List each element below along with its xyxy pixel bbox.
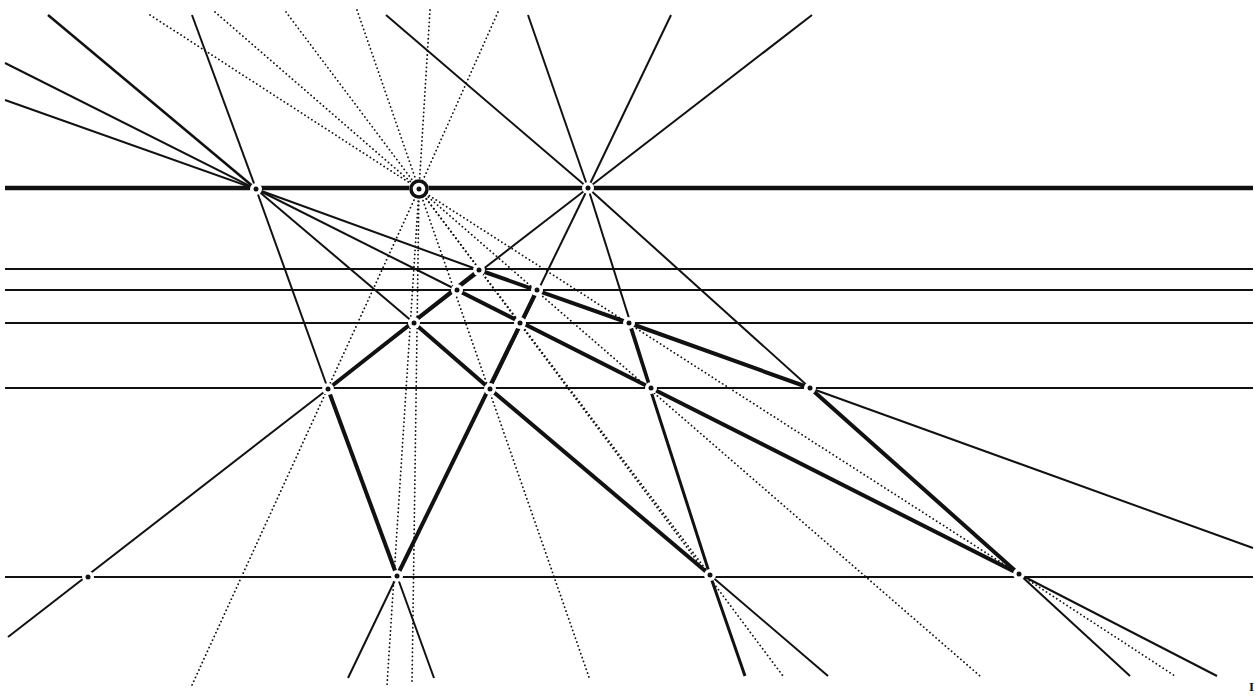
- p1-point: [477, 268, 482, 273]
- p3-point: [455, 288, 460, 293]
- p2-point: [535, 288, 540, 293]
- solid-ray: [651, 388, 1019, 574]
- p4-point: [412, 321, 417, 326]
- p10-point: [808, 386, 813, 391]
- p9-point: [649, 386, 654, 391]
- vp-left-point: [254, 187, 259, 192]
- solid-ray: [629, 323, 710, 575]
- solid-ray: [397, 290, 537, 576]
- solid-ray: [5, 63, 256, 189]
- intersection-points: [82, 179, 1025, 583]
- solid-ray: [1019, 574, 1217, 676]
- solid-ray: [397, 576, 434, 678]
- solid-ray: [1019, 574, 1130, 676]
- dotted-ray: [419, 189, 783, 676]
- solid-ray: [256, 189, 479, 270]
- b1-point: [86, 575, 91, 580]
- p7-point: [326, 387, 331, 392]
- dotted-ray: [286, 12, 419, 189]
- dotted-ray: [192, 189, 419, 685]
- p5-point: [518, 321, 523, 326]
- dotted-ray: [419, 189, 710, 575]
- solid-ray: [588, 15, 812, 188]
- solid-ray: [810, 388, 1253, 548]
- corner-mark: I: [1249, 679, 1254, 695]
- vp-center-point: [417, 187, 422, 192]
- dotted-ray: [419, 189, 590, 680]
- dotted-ray: [412, 189, 419, 685]
- dotted-ray: [419, 189, 980, 676]
- dotted-ray: [419, 189, 1019, 574]
- solid-ray: [588, 15, 671, 188]
- solid-ray: [5, 100, 256, 189]
- b2-point: [395, 574, 400, 579]
- solid-ray: [490, 389, 710, 575]
- solid-ray: [328, 389, 397, 576]
- p6-point: [627, 321, 632, 326]
- solid-rays: [5, 15, 1253, 678]
- p8-point: [488, 387, 493, 392]
- solid-ray: [810, 388, 1019, 574]
- dotted-ray: [1019, 574, 1175, 676]
- solid-ray: [348, 576, 397, 678]
- projective-diagram: [0, 0, 1258, 697]
- solid-ray: [414, 323, 490, 389]
- dotted-rays: [150, 10, 1175, 685]
- dotted-ray: [150, 15, 419, 189]
- solid-ray: [8, 389, 328, 637]
- b4-point: [1017, 572, 1022, 577]
- dotted-ray: [419, 10, 430, 189]
- solid-ray: [629, 323, 810, 388]
- solid-ray: [588, 188, 810, 388]
- b3-point: [708, 573, 713, 578]
- solid-ray: [457, 290, 651, 388]
- horizontal-lines: [5, 188, 1253, 577]
- vp-right-point: [586, 186, 591, 191]
- solid-ray: [479, 270, 629, 323]
